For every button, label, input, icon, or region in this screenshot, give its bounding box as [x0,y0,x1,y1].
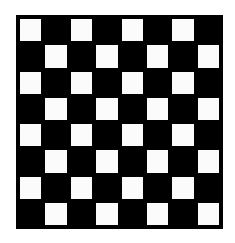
board-square [69,43,94,69]
board-square [96,98,117,120]
board-square [94,17,119,43]
board-square [71,124,92,146]
board-square [71,72,92,94]
board-square [145,70,170,96]
board-square [196,70,221,96]
board-square [196,122,221,148]
board-square [120,96,145,122]
board-square [94,122,119,148]
board-square [198,150,219,172]
board-square [170,96,195,122]
board-square [69,96,94,122]
board-square [71,177,92,199]
board-square [69,148,94,174]
board-square [94,70,119,96]
board-square [147,98,168,120]
board-square [172,19,193,41]
board-square [120,201,145,227]
board-square [145,122,170,148]
board-square [147,203,168,225]
board-square [43,17,68,43]
board-square [18,201,43,227]
board-square [20,124,41,146]
board-square [45,98,66,120]
board-square [198,98,219,120]
board-square [170,148,195,174]
board-square [45,203,66,225]
board-square [170,43,195,69]
board-square [147,150,168,172]
board-square [20,177,41,199]
board-square [120,148,145,174]
board-square [172,124,193,146]
board-square [172,177,193,199]
board-square [96,150,117,172]
board-square [18,43,43,69]
board-square [120,43,145,69]
board-square [43,122,68,148]
board-square [122,72,143,94]
board-square [147,45,168,67]
board-square [69,201,94,227]
board-square [145,17,170,43]
board-square [45,150,66,172]
board-square [122,19,143,41]
board-square [18,96,43,122]
board-square [198,45,219,67]
board-square [196,175,221,201]
board-square [96,203,117,225]
board-square [198,203,219,225]
board-square [122,177,143,199]
board-square [20,19,41,41]
board-square [18,148,43,174]
board-square [45,45,66,67]
board-square [122,124,143,146]
board-square [196,17,221,43]
board-square [71,19,92,41]
board-square [43,175,68,201]
board-square [170,201,195,227]
board-square [20,72,41,94]
checkerboard [16,15,223,229]
board-square [94,175,119,201]
board-square [96,45,117,67]
board-square [172,72,193,94]
board-square [145,175,170,201]
board-square [43,70,68,96]
